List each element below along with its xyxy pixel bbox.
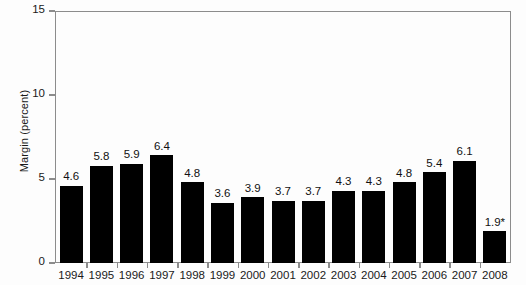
bar-2003: 4.3 xyxy=(332,11,355,263)
x-tick-mark xyxy=(449,263,451,268)
x-label-2006: 2006 xyxy=(422,269,448,281)
bar-value-label: 4.6 xyxy=(63,171,79,183)
bar-rect xyxy=(393,182,416,263)
bar-rect xyxy=(302,201,325,263)
y-tick-label: 0 xyxy=(39,255,45,267)
x-tick-mark xyxy=(86,263,88,268)
x-tick-mark xyxy=(298,263,300,268)
bar-1999: 3.6 xyxy=(211,11,234,263)
bar-rect xyxy=(241,197,264,263)
x-tick-mark xyxy=(177,263,179,268)
y-tick-label: 15 xyxy=(32,3,45,15)
bar-value-label: 3.7 xyxy=(305,186,321,198)
x-tick-mark xyxy=(207,263,209,268)
x-tick-mark xyxy=(389,263,391,268)
x-tick-mark xyxy=(328,263,330,268)
bar-rect xyxy=(90,166,113,263)
bar-value-label: 4.8 xyxy=(184,168,200,180)
x-label-1998: 1998 xyxy=(179,269,205,281)
x-tick-mark xyxy=(480,263,482,268)
bar-2008: 1.9* xyxy=(483,11,506,263)
x-label-2007: 2007 xyxy=(452,269,478,281)
bar-2000: 3.9 xyxy=(241,11,264,263)
bar-value-label: 5.4 xyxy=(426,158,442,170)
x-label-2008: 2008 xyxy=(482,269,508,281)
bar-2001: 3.7 xyxy=(272,11,295,263)
bar-chart: Margin (percent) 051015 4.65.85.96.44.83… xyxy=(0,0,526,285)
bar-value-label: 5.8 xyxy=(93,151,109,163)
bar-rect xyxy=(423,172,446,263)
x-label-2000: 2000 xyxy=(240,269,266,281)
x-label-2004: 2004 xyxy=(361,269,387,281)
bar-2004: 4.3 xyxy=(362,11,385,263)
x-label-2002: 2002 xyxy=(300,269,326,281)
bar-1997: 6.4 xyxy=(150,11,173,263)
bar-rect xyxy=(181,182,204,263)
bar-2002: 3.7 xyxy=(302,11,325,263)
x-label-2001: 2001 xyxy=(270,269,296,281)
x-label-1994: 1994 xyxy=(58,269,84,281)
y-tick-label: 10 xyxy=(32,87,45,99)
bar-rect xyxy=(362,191,385,263)
bar-rect xyxy=(120,164,143,263)
x-tick-mark xyxy=(268,263,270,268)
x-tick-mark xyxy=(147,263,149,268)
x-label-1997: 1997 xyxy=(149,269,175,281)
bar-1994: 4.6 xyxy=(60,11,83,263)
x-tick-mark xyxy=(117,263,119,268)
bar-2005: 4.8 xyxy=(393,11,416,263)
y-axis-title: Margin (percent) xyxy=(18,51,30,211)
bar-value-label: 3.6 xyxy=(214,188,230,200)
bar-value-label: 4.3 xyxy=(336,176,352,188)
bar-1996: 5.9 xyxy=(120,11,143,263)
x-label-1999: 1999 xyxy=(210,269,236,281)
x-label-2005: 2005 xyxy=(391,269,417,281)
bar-rect xyxy=(211,203,234,263)
bar-rect xyxy=(150,155,173,263)
bars-layer: 4.65.85.96.44.83.63.93.73.74.34.34.85.46… xyxy=(56,11,510,263)
bar-value-label: 5.9 xyxy=(124,149,140,161)
x-axis-labels: 1994199519961997199819992000200120022003… xyxy=(56,269,510,285)
bar-2006: 5.4 xyxy=(423,11,446,263)
x-label-1995: 1995 xyxy=(89,269,115,281)
bar-rect xyxy=(60,186,83,263)
bar-1995: 5.8 xyxy=(90,11,113,263)
bar-rect xyxy=(483,231,506,263)
bar-value-label: 1.9* xyxy=(485,217,505,229)
bar-value-label: 4.3 xyxy=(366,176,382,188)
bar-value-label: 6.4 xyxy=(154,141,170,153)
x-tick-mark xyxy=(238,263,240,268)
bar-value-label: 3.7 xyxy=(275,186,291,198)
bar-rect xyxy=(332,191,355,263)
bar-2007: 6.1 xyxy=(453,11,476,263)
bar-value-label: 6.1 xyxy=(457,146,473,158)
y-tick-label: 5 xyxy=(39,171,45,183)
x-label-2003: 2003 xyxy=(331,269,357,281)
bar-value-label: 4.8 xyxy=(396,168,412,180)
x-tick-mark xyxy=(359,263,361,268)
x-tick-mark xyxy=(419,263,421,268)
bar-rect xyxy=(453,161,476,263)
bar-value-label: 3.9 xyxy=(245,183,261,195)
bar-1998: 4.8 xyxy=(181,11,204,263)
x-label-1996: 1996 xyxy=(119,269,145,281)
bar-rect xyxy=(272,201,295,263)
